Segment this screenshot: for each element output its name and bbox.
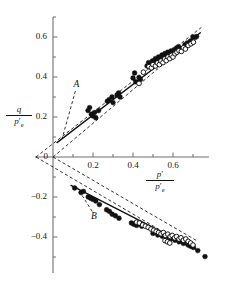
data-point-filled: [111, 100, 116, 105]
plot-canvas: [0, 0, 235, 292]
data-point-filled: [81, 189, 86, 194]
data-point-filled: [203, 254, 208, 259]
label-A: A: [74, 79, 80, 89]
data-point-filled: [194, 34, 199, 39]
data-points-layer: [72, 34, 207, 259]
series-compression-open: [137, 40, 196, 86]
data-point-filled: [93, 115, 98, 120]
fit-lines-layer: [57, 33, 200, 249]
label-B: B: [91, 211, 97, 221]
data-point-filled: [117, 216, 122, 221]
x-axis-numerator: p′: [146, 170, 174, 179]
y-tick-label: 0.2: [19, 111, 47, 121]
data-point-open: [137, 81, 142, 86]
x-axis-denominator: p′e: [146, 182, 174, 193]
data-point-open: [191, 243, 196, 248]
data-point-filled: [72, 186, 77, 191]
y-tick-label: 0: [20, 151, 48, 161]
data-point-filled: [118, 95, 123, 100]
scatter-plot-figure: q p′e p′ p′e 0.20.40.60.60.40.20−0.2−0.4…: [0, 0, 235, 292]
data-point-filled: [93, 199, 98, 204]
axis-layer: [35, 17, 209, 273]
data-point-filled: [110, 95, 115, 100]
data-point-filled: [195, 248, 200, 253]
x-tick-label: 0.6: [163, 160, 183, 170]
data-point-open: [141, 70, 146, 75]
data-point-filled: [97, 202, 102, 207]
x-tick-label: 0.4: [123, 160, 143, 170]
data-point-filled: [96, 108, 101, 113]
data-point-open: [167, 241, 172, 246]
series-extension-open: [134, 220, 195, 248]
x-axis-label: p′ p′e: [146, 170, 174, 193]
data-point-filled: [132, 71, 137, 76]
data-point-open: [191, 40, 196, 45]
y-tick-label: −0.2: [19, 191, 47, 201]
y-tick-label: 0.6: [19, 31, 47, 41]
y-tick-label: 0.4: [19, 71, 47, 81]
y-tick-label: −0.4: [19, 231, 47, 241]
x-tick-label: 0.2: [83, 160, 103, 170]
data-point-filled: [87, 105, 92, 110]
